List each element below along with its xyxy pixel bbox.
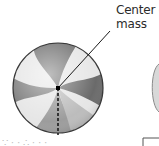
partial-box-bottom-right [143, 138, 159, 146]
center-of-mass-dot [56, 86, 60, 90]
center-of-mass-label-line1: Center of [116, 3, 159, 17]
cut-off-caption: ∵ · · ∴ · · · [2, 138, 102, 146]
partial-ball-right [152, 64, 159, 112]
center-of-mass-label-line2: mass [116, 17, 147, 31]
